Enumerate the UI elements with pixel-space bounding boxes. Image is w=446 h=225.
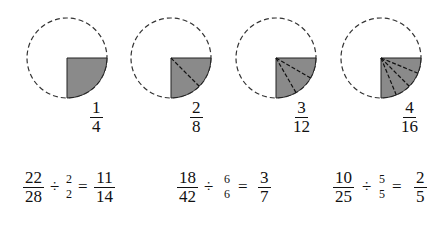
eq1-result: 11 14 bbox=[94, 169, 115, 206]
equals-sign: = bbox=[392, 177, 402, 197]
eq2-fraction-a: 18 42 bbox=[177, 169, 198, 206]
denominator: 5 bbox=[414, 188, 427, 206]
circle-quarter-1 bbox=[27, 18, 107, 98]
numerator: 3 bbox=[295, 99, 308, 118]
denominator: 8 bbox=[190, 118, 203, 136]
denominator: 5 bbox=[377, 187, 387, 202]
divide-sign: ÷ bbox=[204, 177, 213, 197]
denominator: 16 bbox=[399, 118, 420, 136]
eq3-fraction-a: 10 25 bbox=[333, 169, 354, 206]
circle-quarter-2 bbox=[131, 18, 211, 98]
numerator: 3 bbox=[258, 169, 271, 188]
numerator: 22 bbox=[23, 169, 44, 188]
denominator: 12 bbox=[291, 118, 312, 136]
equals-sign: = bbox=[238, 177, 248, 197]
numerator: 11 bbox=[94, 169, 114, 188]
denominator: 25 bbox=[333, 188, 354, 206]
eq2-result: 3 7 bbox=[258, 169, 271, 206]
numerator: 2 bbox=[190, 99, 203, 118]
denominator: 6 bbox=[222, 187, 232, 202]
label-fraction-2: 2 8 bbox=[190, 99, 203, 136]
numerator: 10 bbox=[333, 169, 354, 188]
denominator: 42 bbox=[177, 188, 198, 206]
label-fraction-4: 4 16 bbox=[399, 99, 420, 136]
divide-sign: ÷ bbox=[50, 177, 59, 197]
denominator: 14 bbox=[94, 188, 115, 206]
eq3-divisor: 5 5 bbox=[377, 172, 387, 202]
numerator: 4 bbox=[403, 99, 416, 118]
eq1-divisor: 2 2 bbox=[64, 172, 74, 202]
circle-quarter-4 bbox=[341, 18, 421, 98]
equals-sign: = bbox=[78, 177, 88, 197]
numerator: 6 bbox=[222, 172, 232, 187]
numerator: 18 bbox=[177, 169, 198, 188]
numerator: 5 bbox=[377, 172, 387, 187]
denominator: 7 bbox=[258, 188, 271, 206]
denominator: 2 bbox=[64, 187, 74, 202]
label-fraction-1: 1 4 bbox=[90, 99, 103, 136]
circle-quarter-3 bbox=[236, 18, 316, 98]
numerator: 2 bbox=[64, 172, 74, 187]
denominator: 28 bbox=[23, 188, 44, 206]
eq2-divisor: 6 6 bbox=[222, 172, 232, 202]
eq3-result: 2 5 bbox=[414, 169, 427, 206]
denominator: 4 bbox=[90, 118, 103, 136]
label-fraction-3: 3 12 bbox=[291, 99, 312, 136]
divide-sign: ÷ bbox=[362, 177, 371, 197]
eq1-fraction-a: 22 28 bbox=[23, 169, 44, 206]
numerator: 2 bbox=[414, 169, 427, 188]
numerator: 1 bbox=[90, 99, 103, 118]
